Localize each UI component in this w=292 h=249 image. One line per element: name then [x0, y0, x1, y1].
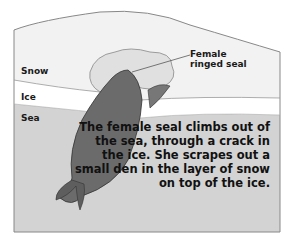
seal-label-line2: ringed seal: [190, 59, 247, 69]
sea-label: Sea: [21, 113, 40, 123]
ice-label: Ice: [21, 92, 36, 102]
caption: The female seal climbs out of the sea, t…: [70, 120, 270, 190]
seal-label-line1: Female: [190, 49, 247, 59]
snow-label: Snow: [21, 66, 48, 76]
seal-label: Female ringed seal: [190, 49, 247, 69]
